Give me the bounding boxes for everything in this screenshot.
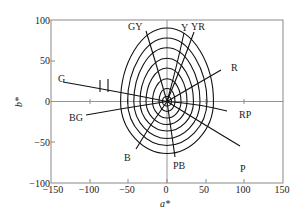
- hue-label-b: B: [124, 152, 131, 163]
- hue-label-yr: YR: [191, 21, 205, 32]
- y-tick-label: −50: [34, 137, 50, 148]
- hue-label-rp: RP: [239, 109, 252, 120]
- x-tick-label: −100: [79, 184, 100, 195]
- hue-label-pb: PB: [173, 160, 186, 171]
- y-tick-label: 0: [45, 96, 50, 107]
- hue-line-gy: [146, 31, 167, 102]
- x-axis-label: a*: [160, 198, 170, 209]
- hue-label-r: R: [231, 62, 238, 73]
- chroma-hue-chart: GY Y YR R RP P PB B BG G −150 −100 −50 0…: [0, 0, 301, 219]
- hue-line-bg: [86, 102, 167, 116]
- hue-label-y: Y: [181, 22, 188, 33]
- y-tick-labels: 100 50 0 −50 −100: [29, 15, 50, 189]
- hue-label-bg: BG: [69, 112, 83, 123]
- y-tick-label: 50: [40, 55, 50, 66]
- hue-label-gy: GY: [128, 21, 142, 32]
- x-tick-labels: −150 −100 −50 0 50 100 150: [43, 184, 290, 195]
- hue-label-g: G: [58, 73, 65, 84]
- x-tick-label: 0: [164, 184, 169, 195]
- x-tick-label: 50: [199, 184, 209, 195]
- y-axis-label: b*: [13, 97, 24, 107]
- x-tick-label: −50: [119, 184, 135, 195]
- hue-line-y: [167, 33, 184, 102]
- hue-label-p: P: [240, 163, 246, 174]
- y-tick-label: −100: [29, 178, 50, 189]
- hue-line-p: [167, 102, 240, 147]
- hue-line-g: [63, 82, 167, 102]
- x-tick-label: 150: [275, 184, 290, 195]
- x-axis-ticks: [90, 179, 244, 183]
- x-tick-label: 100: [236, 184, 251, 195]
- y-tick-label: 100: [35, 15, 50, 26]
- hue-line-rp: [167, 102, 227, 112]
